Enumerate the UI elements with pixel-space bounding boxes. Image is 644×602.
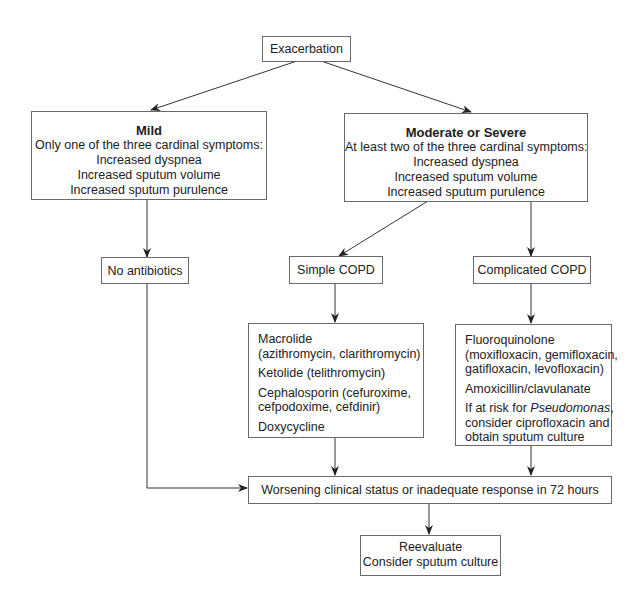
drug-cephalosporin: Cephalosporin (cefuroxime, cefpodoxime, …: [258, 386, 415, 415]
exacerbation-node: Exacerbation: [262, 36, 351, 62]
drug-line: (moxifloxacin, gemifloxacin,: [465, 348, 603, 363]
exacerbation-label: Exacerbation: [270, 42, 343, 56]
worsening-node: Worsening clinical status or inadequate …: [248, 476, 612, 504]
drug-ketolide: Ketolide (telithromycin): [258, 366, 415, 381]
drug-pseudomonas-note: If at risk for Pseudomonas, consider cip…: [465, 401, 603, 445]
no-antibiotics-label: No antibiotics: [107, 264, 182, 278]
drug-line: Fluoroquinolone: [465, 333, 603, 348]
pseudomonas-prefix: If at risk for: [465, 401, 530, 415]
mild-title: Mild: [32, 123, 266, 138]
mild-node: Mild Only one of the three cardinal symp…: [31, 111, 267, 200]
moderate-subtitle: At least two of the three cardinal sympt…: [345, 140, 587, 155]
drug-doxycycline: Doxycycline: [258, 420, 415, 435]
drug-line: Amoxicillin/clavulanate: [465, 382, 603, 397]
pseudomonas-suffix: ,: [610, 401, 613, 415]
mild-subtitle: Only one of the three cardinal symptoms:: [32, 138, 266, 153]
drug-line: consider ciprofloxacin and: [465, 416, 603, 431]
drug-line: cefpodoxime, cefdinir): [258, 400, 415, 415]
worsening-label: Worsening clinical status or inadequate …: [261, 483, 598, 497]
moderate-symptom: Increased sputum purulence: [345, 185, 587, 200]
pseudomonas-term: Pseudomonas: [530, 401, 610, 415]
drug-line: Ketolide (telithromycin): [258, 366, 415, 381]
complicated-copd-treatment-node: Fluoroquinolone (moxifloxacin, gemifloxa…: [455, 324, 612, 446]
moderate-severe-node: Moderate or Severe At least two of the t…: [344, 113, 588, 202]
drug-line: Cephalosporin (cefuroxime,: [258, 386, 415, 401]
reevaluate-node: Reevaluate Consider sputum culture: [360, 535, 501, 576]
drug-line: Doxycycline: [258, 420, 415, 435]
arrow-no-antibiotics-to-worsening: [147, 283, 247, 488]
mild-symptom: Increased sputum volume: [32, 168, 266, 183]
moderate-symptom: Increased sputum volume: [345, 170, 587, 185]
simple-copd-treatment-node: Macrolide (azithromycin, clarithromycin)…: [248, 323, 424, 438]
arrow-exacerbation-to-moderate: [321, 61, 471, 112]
drug-line: gatifloxacin, levofloxacin): [465, 362, 603, 377]
no-antibiotics-node: No antibiotics: [101, 257, 189, 284]
reevaluate-line: Reevaluate: [361, 540, 500, 555]
moderate-title: Moderate or Severe: [345, 125, 587, 140]
drug-amoxicillin: Amoxicillin/clavulanate: [465, 382, 603, 397]
complicated-copd-label: Complicated COPD: [477, 263, 586, 277]
drug-line: obtain sputum culture: [465, 430, 603, 445]
complicated-copd-node: Complicated COPD: [473, 256, 591, 284]
flowchart-canvas: Exacerbation Mild Only one of the three …: [0, 0, 644, 602]
drug-line: (azithromycin, clarithromycin): [258, 347, 415, 362]
mild-symptom: Increased dyspnea: [32, 153, 266, 168]
drug-line: If at risk for Pseudomonas,: [465, 401, 603, 416]
moderate-symptom: Increased dyspnea: [345, 155, 587, 170]
drug-macrolide: Macrolide (azithromycin, clarithromycin): [258, 332, 415, 361]
reevaluate-line: Consider sputum culture: [361, 555, 500, 570]
drug-fluoroquinolone: Fluoroquinolone (moxifloxacin, gemifloxa…: [465, 333, 603, 377]
connector-layer: [0, 0, 644, 602]
simple-copd-node: Simple COPD: [289, 256, 383, 284]
mild-symptom: Increased sputum purulence: [32, 183, 266, 198]
simple-copd-label: Simple COPD: [297, 263, 375, 277]
arrow-exacerbation-to-mild: [151, 61, 297, 110]
drug-line: Macrolide: [258, 332, 415, 347]
arrow-moderate-to-simple: [339, 201, 428, 256]
